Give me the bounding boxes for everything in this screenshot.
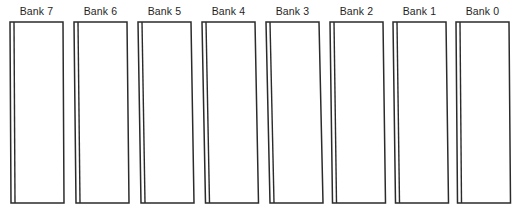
- bank-label-6: Bank 6: [84, 5, 118, 17]
- bank-outline: [393, 22, 449, 203]
- banks-group: Bank 7Bank 6Bank 5Bank 4Bank 3Bank 2Bank…: [10, 5, 511, 203]
- bank-label-2: Bank 2: [340, 5, 374, 17]
- bank-outline: [74, 22, 129, 203]
- bank-outline: [330, 22, 386, 203]
- memory-bank[interactable]: Bank 6: [74, 5, 129, 203]
- bank-outline: [456, 22, 511, 203]
- memory-bank[interactable]: Bank 5: [138, 5, 194, 203]
- bank-outline: [10, 22, 64, 203]
- bank-outline: [266, 22, 323, 203]
- bank-label-4: Bank 4: [212, 5, 246, 17]
- memory-bank[interactable]: Bank 2: [330, 5, 386, 203]
- bank-outline: [138, 22, 194, 203]
- bank-spine-line: [14, 22, 15, 203]
- memory-bank[interactable]: Bank 7: [10, 5, 64, 203]
- memory-bank[interactable]: Bank 3: [266, 5, 323, 203]
- bank-label-3: Bank 3: [276, 5, 310, 17]
- memory-bank[interactable]: Bank 1: [393, 5, 449, 203]
- bank-outline: [202, 22, 259, 203]
- memory-bank[interactable]: Bank 4: [202, 5, 259, 203]
- memory-bank[interactable]: Bank 0: [456, 5, 511, 203]
- bank-label-7: Bank 7: [20, 5, 54, 17]
- bank-label-1: Bank 1: [403, 5, 437, 17]
- diagram-canvas: Bank 7Bank 6Bank 5Bank 4Bank 3Bank 2Bank…: [0, 0, 516, 211]
- bank-label-5: Bank 5: [148, 5, 182, 17]
- memory-banks-diagram: Bank 7Bank 6Bank 5Bank 4Bank 3Bank 2Bank…: [0, 0, 516, 211]
- bank-label-0: Bank 0: [466, 5, 500, 17]
